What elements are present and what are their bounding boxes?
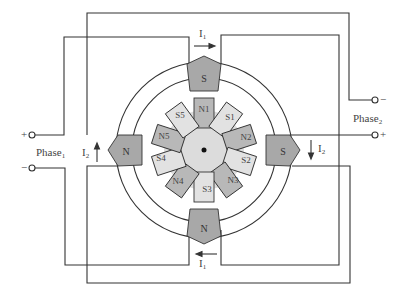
rotor-tooth-s5-label: S5 <box>175 110 185 120</box>
rotor-tooth-s2-label: S2 <box>241 155 251 165</box>
phase1-minus-terminal <box>29 165 35 171</box>
phase1-wire-top <box>35 37 189 135</box>
stator-pole-top-label: S <box>201 73 207 84</box>
rotor-tooth-s4-label: S4 <box>156 153 166 163</box>
phase1-plus-sign: + <box>21 129 27 140</box>
phase2-minus-sign: − <box>380 94 386 105</box>
rotor-tooth-n3-label: N3 <box>228 175 239 185</box>
phase2-plus-sign: + <box>380 129 386 140</box>
current-i2-right-label: I2 <box>318 143 325 156</box>
rotor-tooth-n2-label: N2 <box>241 132 252 142</box>
current-i1-top-label: I1 <box>199 28 206 41</box>
stator-pole-bottom-label: N <box>200 223 207 234</box>
rotor-tooth-s1-label: S1 <box>225 112 235 122</box>
stepper-motor-diagram: S N S N N1 S1 N2 S2 N3 S3 N4 S4 N5 S5 I1… <box>0 0 404 296</box>
phase2-plus-terminal <box>372 132 378 138</box>
rotor-tooth-n4-label: N4 <box>173 176 184 186</box>
rotor-tooth-n1-label: N1 <box>199 104 210 114</box>
rotor-tooth-s3-label: S3 <box>202 184 212 194</box>
phase1-plus-terminal <box>29 132 35 138</box>
arrow-i1-top-head <box>209 44 215 49</box>
current-i2-left-label: I2 <box>82 147 89 160</box>
phase1-label: Phase1 <box>36 147 65 160</box>
arrow-i2-right-head <box>309 153 314 159</box>
phase1-wire-bottom <box>35 168 189 265</box>
rotor-tooth-n5-label: N5 <box>159 131 170 141</box>
rotor-shaft <box>202 148 207 153</box>
phase2-minus-terminal <box>372 97 378 103</box>
stator-pole-right-label: S <box>280 146 286 157</box>
arrow-i2-left-head <box>95 143 100 149</box>
current-i1-bottom-label: I1 <box>199 258 206 271</box>
arrow-i1-bottom-head <box>196 252 202 257</box>
stator-pole-left-label: N <box>122 146 129 157</box>
phase2-label: Phase2 <box>353 113 382 126</box>
phase1-minus-sign: − <box>21 162 27 173</box>
